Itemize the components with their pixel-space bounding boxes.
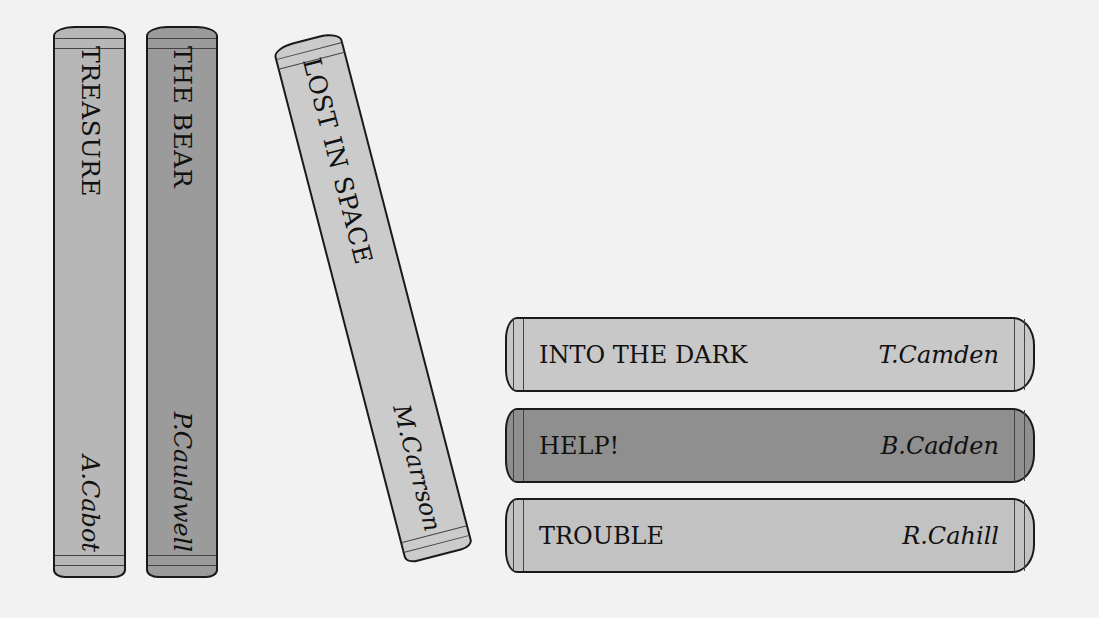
spine-band-right: [1014, 500, 1025, 571]
book-the-bear: THE BEAR P.Cauldwell: [146, 26, 218, 578]
book-lost-in-space: LOST IN SPACE M.Carrson: [272, 30, 473, 565]
book-author: A.Cabot: [76, 455, 104, 552]
spine-band-left: [513, 410, 524, 481]
book-title: LOST IN SPACE: [297, 55, 378, 268]
spine-band-bottom: [55, 555, 124, 566]
book-help: HELP! B.Cadden: [505, 408, 1035, 483]
book-title: TREASURE: [75, 46, 104, 197]
book-title: HELP!: [539, 432, 619, 460]
spine-band-left: [513, 319, 524, 390]
book-into-the-dark: INTO THE DARK T.Camden: [505, 317, 1035, 392]
book-author: P.Cauldwell: [168, 412, 196, 552]
book-author: M.Carrson: [387, 401, 447, 534]
book-title: INTO THE DARK: [539, 341, 747, 369]
spine-band-right: [1014, 410, 1025, 481]
book-author: T.Camden: [878, 341, 999, 369]
book-title: THE BEAR: [168, 46, 197, 188]
spine-band-left: [513, 500, 524, 571]
spine-band-right: [1014, 319, 1025, 390]
book-author: B.Cadden: [881, 432, 999, 460]
book-trouble: TROUBLE R.Cahill: [505, 498, 1035, 573]
spine-band-bottom: [148, 555, 216, 566]
book-author: R.Cahill: [902, 522, 999, 550]
book-title: TROUBLE: [539, 522, 664, 550]
book-treasure: TREASURE A.Cabot: [53, 26, 126, 578]
